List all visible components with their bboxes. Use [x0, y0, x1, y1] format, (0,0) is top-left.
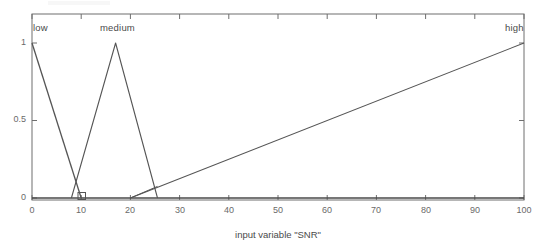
mf-label-medium: medium — [100, 22, 135, 33]
x-tick-label-0: 0 — [22, 205, 42, 215]
x-axis-ticks — [32, 14, 524, 200]
mf-label-low: low — [33, 22, 48, 33]
x-tick-label-60: 60 — [317, 205, 337, 215]
x-tick-label-30: 30 — [170, 205, 190, 215]
x-tick-label-50: 50 — [268, 205, 288, 215]
curve-high-lower-edge — [130, 186, 157, 198]
curve-medium[interactable] — [71, 43, 157, 198]
figure-canvas: low medium high 1 0.5 0 0 10 20 30 40 50… — [0, 0, 543, 251]
x-tick-label-40: 40 — [219, 205, 239, 215]
mf-label-high: high — [505, 22, 524, 33]
curve-high[interactable] — [130, 43, 524, 198]
y-axis-ticks — [32, 43, 524, 198]
y-tick-label-0-5: 0.5 — [4, 114, 26, 124]
x-tick-label-70: 70 — [366, 205, 386, 215]
x-tick-label-20: 20 — [120, 205, 140, 215]
y-tick-label-1: 1 — [10, 37, 26, 47]
curve-low[interactable] — [32, 43, 81, 198]
plot-frame — [32, 14, 524, 200]
x-tick-label-90: 90 — [465, 205, 485, 215]
x-axis-title: input variable "SNR" — [178, 229, 378, 240]
x-tick-label-80: 80 — [416, 205, 436, 215]
x-tick-label-10: 10 — [71, 205, 91, 215]
x-tick-label-100: 100 — [513, 205, 535, 215]
y-tick-label-0: 0 — [10, 192, 26, 202]
